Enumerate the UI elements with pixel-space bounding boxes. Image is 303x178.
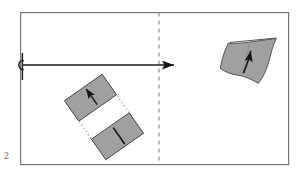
figure-frame [21, 13, 289, 165]
page-number: 2 [4, 150, 9, 162]
figure-canvas [0, 0, 303, 178]
figure-container: 2 [0, 0, 303, 178]
